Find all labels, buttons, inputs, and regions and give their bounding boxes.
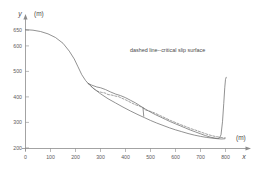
series-critical-slip-surface <box>88 83 226 138</box>
slip-surface-annotation: dashed line--critical slip surface <box>130 47 205 53</box>
y-tick-label-400: 400 <box>13 94 22 100</box>
x-axis-label: x <box>241 153 246 160</box>
x-axis-arrow-icon <box>246 146 252 150</box>
x-tick-label-800: 800 <box>221 154 230 160</box>
x-tick-label-600: 600 <box>171 154 180 160</box>
y-ticks <box>26 30 30 148</box>
x-tick-label-100: 100 <box>46 154 55 160</box>
series-slip-wedge-tie-line <box>143 108 144 116</box>
y-tick-label-650: 650 <box>13 27 22 33</box>
slope-stability-chart: 650 600 500 400 300 200 0 100 200 300 40… <box>0 0 260 173</box>
y-axis-unit: (m) <box>34 10 44 18</box>
chart-canvas: 650 600 500 400 300 200 0 100 200 300 40… <box>0 0 260 173</box>
y-tick-label-500: 500 <box>13 68 22 74</box>
x-tick-label-300: 300 <box>96 154 105 160</box>
y-tick-label-600: 600 <box>13 43 22 49</box>
y-axis-label: y <box>17 10 22 18</box>
series-internal-shear-boundary <box>88 83 225 139</box>
x-axis-unit: (m) <box>236 134 246 142</box>
x-axis <box>22 146 251 150</box>
y-tick-label-300: 300 <box>13 119 22 125</box>
y-axis-arrow-icon <box>23 14 27 20</box>
x-tick-label-400: 400 <box>121 154 130 160</box>
x-tick-label-200: 200 <box>71 154 80 160</box>
x-tick-label-0: 0 <box>24 154 27 160</box>
y-tick-label-200: 200 <box>13 145 22 151</box>
x-tick-label-700: 700 <box>196 154 205 160</box>
y-axis <box>23 14 27 151</box>
x-ticks <box>26 149 226 153</box>
series-ground-surface-profile <box>26 30 227 139</box>
x-tick-label-500: 500 <box>146 154 155 160</box>
